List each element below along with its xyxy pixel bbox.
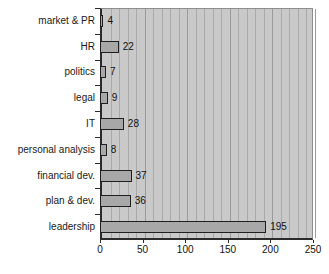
y-axis-tick: [95, 85, 100, 86]
bar-value-label: 22: [123, 41, 134, 52]
y-axis-tick: [95, 8, 100, 9]
x-axis-tick-mark: [270, 240, 271, 243]
x-axis-tick-label: 0: [97, 244, 103, 255]
y-axis-tick: [95, 34, 100, 35]
x-axis-tick-mark: [143, 240, 144, 243]
y-axis-tick: [95, 214, 100, 215]
category-label: leadership: [0, 221, 95, 232]
y-axis-tick: [95, 111, 100, 112]
y-axis-tick: [95, 188, 100, 189]
bar-value-label: 37: [136, 170, 147, 181]
bar: [100, 15, 103, 27]
bar-value-label: 28: [128, 118, 139, 129]
bar: [100, 41, 119, 53]
x-axis-tick-label: 100: [177, 244, 194, 255]
category-label: politics: [0, 66, 95, 77]
category-label: legal: [0, 92, 95, 103]
bar-value-label: 7: [110, 66, 116, 77]
y-axis-tick: [95, 137, 100, 138]
y-axis-tick: [95, 163, 100, 164]
bar-value-label: 4: [107, 15, 113, 26]
category-label: personal analysis: [0, 144, 95, 155]
category-label: plan & dev.: [0, 195, 95, 206]
bar: [100, 66, 106, 78]
bar-value-label: 8: [111, 144, 117, 155]
bar: [100, 170, 132, 182]
category-label: IT: [0, 118, 95, 129]
bar: [100, 221, 266, 233]
category-label: financial dev.: [0, 170, 95, 181]
x-axis-tick-label: 200: [262, 244, 279, 255]
x-axis-tick-label: 250: [305, 244, 322, 255]
category-label: market & PR: [0, 15, 95, 26]
x-axis-tick-label: 150: [219, 244, 236, 255]
x-axis-tick-mark: [100, 240, 101, 243]
bar-value-label: 195: [270, 221, 287, 232]
bar: [100, 195, 131, 207]
y-axis-tick: [95, 60, 100, 61]
category-label: HR: [0, 41, 95, 52]
x-axis-tick-labels: 050100150200250: [0, 244, 329, 264]
bar-value-label: 36: [135, 195, 146, 206]
x-axis-tick-mark: [185, 240, 186, 243]
x-axis-tick-mark: [313, 240, 314, 243]
bar-rows: market & PR4HR22politics7legal9IT28perso…: [0, 8, 329, 240]
bar: [100, 92, 108, 104]
bar: [100, 118, 124, 130]
x-axis-tick-mark: [228, 240, 229, 243]
bar-chart: market & PR4HR22politics7legal9IT28perso…: [0, 0, 329, 274]
bar: [100, 144, 107, 156]
x-axis-tick-label: 50: [137, 244, 148, 255]
bar-value-label: 9: [112, 92, 118, 103]
